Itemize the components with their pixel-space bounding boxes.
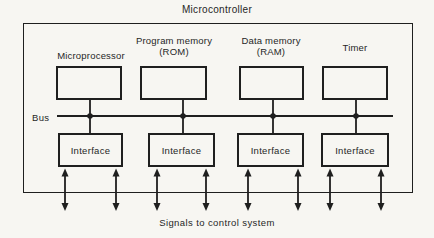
block-program-memory: [140, 66, 207, 100]
block-data-memory: [239, 66, 304, 100]
interface-block-4: Interface: [321, 133, 389, 167]
interface-block-1: Interface: [58, 133, 123, 167]
microcontroller-diagram: Microcontroller: [0, 0, 434, 238]
block-label-timer: Timer: [295, 42, 415, 53]
bus-label: Bus: [32, 112, 49, 123]
interface-block-2: Interface: [148, 133, 215, 167]
block-timer: [322, 66, 388, 100]
interface-block-3: Interface: [237, 133, 304, 167]
signals-caption: Signals to control system: [0, 217, 434, 228]
block-microprocessor: [56, 66, 122, 100]
